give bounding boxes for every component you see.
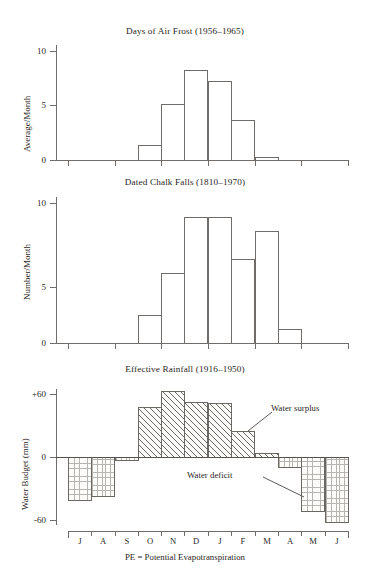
bar-water-surplus-oct (138, 407, 162, 458)
month-label-jun: J (325, 536, 349, 546)
y-tick-label-10-air-frost: 10 (22, 46, 46, 56)
y-tick-label-plus60: +60 (20, 389, 46, 399)
x-tick-mark (208, 344, 209, 349)
bar-chalk-falls-nov (161, 273, 185, 344)
x-tick-mark (115, 344, 116, 349)
bar-chalk-falls-oct (138, 315, 162, 344)
y-tick-label-0-air-frost: 0 (22, 155, 46, 165)
month-label-nov: N (161, 536, 185, 546)
bar-air-frost-jan (208, 81, 232, 161)
x-tick-mark (161, 161, 162, 166)
x-tick-mark (301, 344, 302, 349)
zero-baseline-water-budget (56, 457, 349, 458)
bar-chalk-falls-mar (255, 231, 279, 344)
month-label-mar: M (255, 536, 279, 546)
annotation-water-deficit: Water deficit (187, 470, 232, 480)
bar-water-deficit-aug (91, 457, 115, 497)
annotation-water-surplus: Water surplus (271, 403, 319, 413)
y-tick-label-10-chalk-falls: 10 (22, 198, 46, 208)
y-tick-label-5-air-frost: 5 (22, 100, 46, 110)
bar-chalk-falls-apr (278, 329, 302, 344)
month-label-aug: A (91, 536, 115, 546)
panel-title-air-frost: Days of Air Frost (1956–1965) (0, 26, 370, 36)
bar-air-frost-dec (184, 70, 208, 161)
y-axis-air-frost (56, 45, 57, 161)
leader-line-water-deficit (263, 477, 306, 499)
month-label-apr: A (278, 536, 302, 546)
x-tick-mark (68, 344, 69, 349)
month-label-oct: O (138, 536, 162, 546)
bar-water-surplus-nov (161, 391, 185, 458)
panel-title-chalk-falls: Dated Chalk Falls (1810–1970) (0, 177, 370, 187)
bar-water-deficit-jun (325, 457, 349, 523)
panel-title-effective-rainfall: Effective Rainfall (1916–1950) (0, 364, 370, 374)
month-label-dec: D (184, 536, 208, 546)
x-tick-mark (208, 161, 209, 166)
x-tick-mark (348, 344, 349, 349)
bar-chalk-falls-dec (184, 217, 208, 344)
leader-line-water-surplus (248, 412, 274, 432)
bar-air-frost-nov (161, 104, 185, 161)
month-label-may: M (301, 536, 325, 546)
bar-air-frost-oct (138, 145, 162, 161)
x-tick-mark (115, 161, 116, 166)
y-tick-label-zero: 0 (20, 452, 46, 462)
bar-water-deficit-apr (278, 457, 302, 468)
y-tick-label-minus60: -60 (20, 515, 46, 525)
x-tick-mark (301, 161, 302, 166)
y-tick-label-0-chalk-falls: 0 (22, 338, 46, 348)
x-tick-mark (161, 344, 162, 349)
bar-chalk-falls-feb (231, 259, 255, 344)
x-tick-mark (255, 344, 256, 349)
footnote-pe-definition: PE = Potential Evapotranspiration (0, 552, 370, 562)
x-tick-mark (255, 161, 256, 166)
x-tick-mark (68, 161, 69, 166)
month-label-sep: S (115, 536, 139, 546)
y-axis-label-water-budget: Water Budget (mm) (20, 438, 30, 510)
month-label-jan: J (208, 536, 232, 546)
bar-air-frost-mar (255, 157, 279, 161)
bar-air-frost-feb (231, 120, 255, 161)
y-tick-label-5-chalk-falls: 5 (22, 282, 46, 292)
month-label-jul: J (68, 536, 92, 546)
bar-water-surplus-dec (184, 402, 208, 458)
figure-root: Days of Air Frost (1956–1965) Average/Mo… (0, 0, 370, 573)
bar-water-surplus-feb (231, 431, 255, 458)
y-axis-chalk-falls (56, 197, 57, 344)
bar-chalk-falls-jan (208, 217, 232, 344)
bar-water-deficit-jul (68, 457, 92, 501)
bar-water-surplus-jan (208, 403, 232, 458)
x-tick-mark (348, 161, 349, 166)
month-label-feb: F (231, 536, 255, 546)
